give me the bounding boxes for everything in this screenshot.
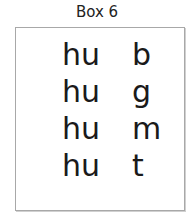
word-ending: b xyxy=(132,36,151,73)
word-ending: m xyxy=(132,110,161,147)
word-onset: hu xyxy=(62,36,100,73)
word-ending: g xyxy=(132,73,151,110)
word-row: hu b xyxy=(16,36,184,73)
word-box: hu b hu g hu m hu t xyxy=(15,27,185,211)
word-row: hu m xyxy=(16,110,184,147)
box-title: Box 6 xyxy=(0,3,194,21)
word-onset: hu xyxy=(62,110,100,147)
word-onset: hu xyxy=(62,147,100,184)
word-row: hu g xyxy=(16,73,184,110)
word-ending: t xyxy=(132,147,144,184)
word-row: hu t xyxy=(16,147,184,184)
word-onset: hu xyxy=(62,73,100,110)
